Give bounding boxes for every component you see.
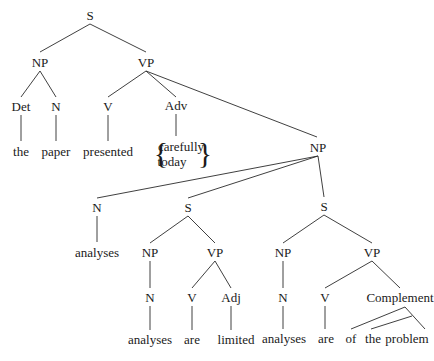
node-n3: N	[145, 291, 154, 304]
word-w_the2: the	[365, 332, 381, 345]
word-w_analyses3: analyses	[262, 332, 306, 345]
tree-edge	[325, 261, 372, 288]
node-n1: N	[51, 100, 60, 113]
node-v2: V	[187, 291, 196, 304]
word-w_of: of	[346, 332, 357, 345]
tree-edge	[146, 71, 176, 97]
word-w_are1: are	[184, 333, 200, 346]
tree-edge	[40, 24, 90, 52]
tree-edge	[90, 24, 146, 52]
node-np4: NP	[275, 246, 292, 259]
right-brace: }	[198, 138, 212, 168]
tree-edge	[21, 71, 40, 97]
word-w_problem: problem	[385, 332, 428, 345]
node-n2: N	[92, 201, 101, 214]
node-vp1: VP	[138, 56, 155, 69]
node-adv: Adv	[165, 99, 187, 112]
word-w_paper: paper	[42, 145, 71, 158]
node-v1: V	[103, 100, 112, 113]
tree-edge	[318, 156, 324, 197]
left-brace: {	[154, 138, 168, 168]
node-np2: NP	[310, 141, 327, 154]
tree-edge	[150, 216, 188, 243]
tree-edge	[405, 307, 425, 329]
node-comp: Complement	[366, 291, 433, 304]
node-s2: S	[320, 200, 327, 213]
node-np1: NP	[32, 56, 49, 69]
tree-edge	[40, 71, 56, 97]
node-n4: N	[278, 291, 287, 304]
tree-edge	[108, 71, 146, 97]
node-vp3: VP	[364, 246, 381, 259]
word-w_are2: are	[318, 332, 334, 345]
node-s1: S	[184, 201, 191, 214]
node-det: Det	[12, 100, 31, 113]
node-adj: Adj	[221, 291, 241, 304]
node-np3: NP	[142, 246, 159, 259]
node-s0: S	[86, 9, 93, 22]
node-vp2: VP	[207, 246, 224, 259]
tree-edge	[351, 307, 405, 329]
tree-edge	[188, 216, 215, 243]
tree-edge	[215, 261, 231, 288]
word-w_analyses1: analyses	[75, 246, 119, 259]
tree-edge	[324, 215, 372, 243]
word-w_limited: limited	[218, 333, 255, 346]
tree-edge	[192, 261, 215, 288]
word-w_analyses2: analyses	[128, 333, 172, 346]
tree-edge	[283, 215, 324, 243]
word-w_presented: presented	[83, 145, 133, 158]
word-w_the: the	[13, 145, 29, 158]
node-v3: V	[320, 291, 329, 304]
tree-edge	[372, 261, 400, 288]
